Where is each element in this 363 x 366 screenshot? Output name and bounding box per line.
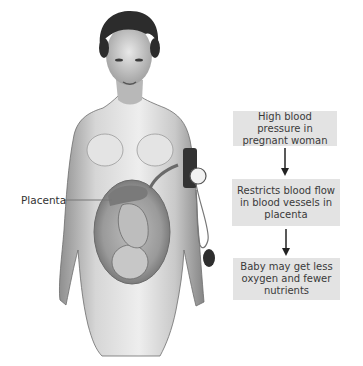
flow-step-restricts-blood-flow: Restricts blood flow in blood vessels in… bbox=[232, 179, 340, 226]
placenta-label: Placenta bbox=[21, 194, 66, 206]
flow-step-high-blood-pressure: High blood pressure in pregnant woman bbox=[233, 111, 337, 146]
flow-step-baby-less-oxygen: Baby may get less oxygen and fewer nutri… bbox=[233, 258, 340, 300]
down-arrow-icon bbox=[280, 148, 290, 176]
down-arrow-icon bbox=[281, 229, 291, 256]
